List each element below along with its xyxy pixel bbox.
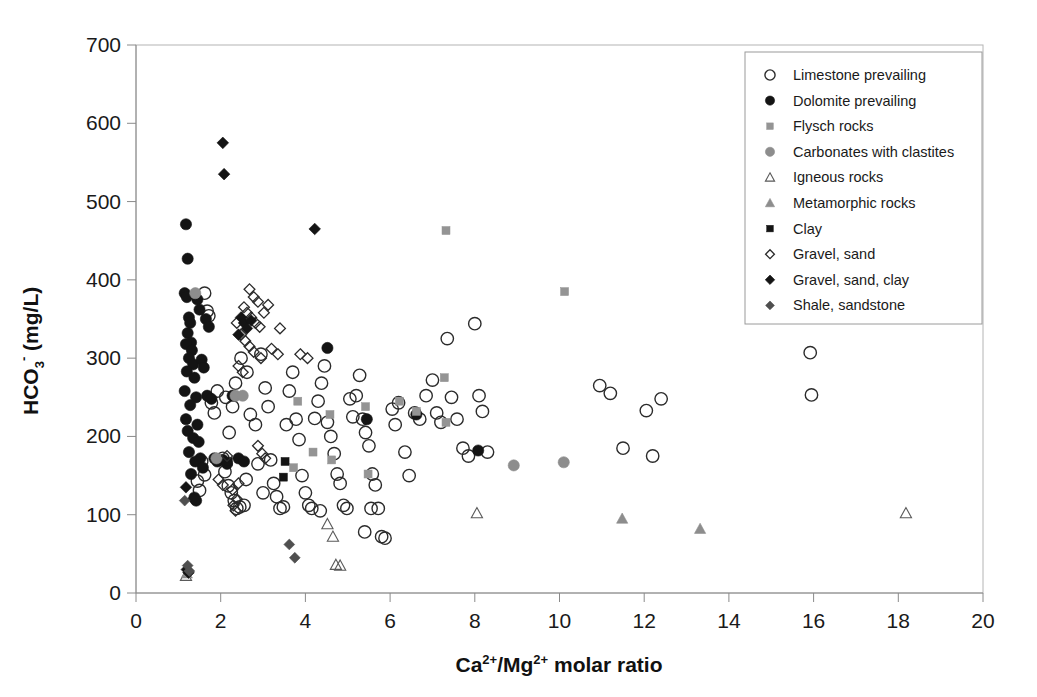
point-open-circle <box>426 374 438 386</box>
point-darkgray-diamond <box>284 539 295 550</box>
x-title-pre: Ca <box>455 653 482 676</box>
point-filled-circle <box>206 393 217 404</box>
y-tick-label: 0 <box>109 581 121 604</box>
point-filled-circle <box>473 445 484 456</box>
point-filled-circle <box>180 219 191 230</box>
legend-item-carbonates-with-clastites[interactable]: Carbonates with clastites <box>765 144 954 160</box>
scatter-chart: 0100200300400500600700 02468101214161820… <box>0 0 1037 697</box>
point-open-circle <box>226 400 238 412</box>
x-tick-label: 14 <box>717 609 741 632</box>
point-gray-square <box>395 397 403 405</box>
y-axis-title: HCO3- (mg/L) <box>16 287 47 415</box>
point-filled-circle <box>238 456 249 467</box>
point-black-diamond <box>218 168 230 180</box>
x-tick-label: 18 <box>887 609 910 632</box>
point-darkgray-diamond <box>179 495 190 506</box>
point-open-circle <box>359 426 371 438</box>
point-open-circle <box>299 487 311 499</box>
x-tick-label: 8 <box>469 609 481 632</box>
legend-item-label: Clay <box>793 221 823 237</box>
point-black-square <box>279 473 287 481</box>
point-open-circle <box>804 346 816 358</box>
point-open-diamond <box>275 323 286 334</box>
point-open-triangle <box>327 531 338 541</box>
point-open-circle <box>604 387 616 399</box>
y-tick-label: 500 <box>86 190 121 213</box>
point-open-circle <box>341 502 353 514</box>
point-gray-square <box>328 456 336 464</box>
point-filled-circle <box>198 362 209 373</box>
point-open-circle <box>399 446 411 458</box>
legend-item-label: Gravel, sand, clay <box>793 272 910 288</box>
point-gray-square <box>326 411 334 419</box>
chart-canvas: 0100200300400500600700 02468101214161820… <box>0 0 1037 697</box>
point-filled-circle <box>185 468 196 479</box>
point-filled-circle <box>322 342 333 353</box>
point-open-circle <box>389 418 401 430</box>
point-open-circle <box>229 377 241 389</box>
x-tick-label: 16 <box>802 609 825 632</box>
point-open-diamond <box>254 321 265 332</box>
x-title-post: molar ratio <box>548 653 662 676</box>
point-open-triangle <box>322 519 333 529</box>
point-open-circle <box>369 479 381 491</box>
x-title-mid: /Mg <box>497 653 533 676</box>
legend-item-label: Flysch rocks <box>793 118 874 134</box>
point-open-circle <box>805 389 817 401</box>
series-metamorphic-rocks <box>181 513 705 578</box>
point-filled-circle <box>185 317 196 328</box>
point-open-circle <box>646 450 658 462</box>
point-open-circle <box>315 377 327 389</box>
point-black-diamond <box>180 482 192 494</box>
x-tick-label: 10 <box>548 609 571 632</box>
x-title-sup2: 2+ <box>533 652 548 667</box>
x-axis: 02468101214161820 <box>130 593 995 632</box>
point-filled-circle <box>185 400 196 411</box>
point-open-circle <box>303 499 315 511</box>
point-open-circle <box>240 473 252 485</box>
point-open-circle <box>337 499 349 511</box>
point-open-circle <box>286 366 298 378</box>
y-title-post: (mg/L) <box>19 287 42 357</box>
point-gray-square <box>290 464 298 472</box>
point-open-circle <box>259 382 271 394</box>
chart-legend: Limestone prevailingDolomite prevailingF… <box>745 52 982 324</box>
point-filled-circle <box>179 385 190 396</box>
point-gray-circle <box>508 460 519 471</box>
y-axis: 0100200300400500600700 <box>86 33 136 604</box>
point-gray-square <box>309 448 317 456</box>
point-gray-circle <box>765 147 774 156</box>
point-open-circle <box>293 433 305 445</box>
point-gray-square <box>364 470 372 478</box>
point-open-triangle <box>335 560 346 570</box>
point-open-circle <box>325 430 337 442</box>
point-open-circle <box>372 502 384 514</box>
point-open-diamond <box>302 353 313 364</box>
point-open-circle <box>473 390 485 402</box>
y-tick-label: 700 <box>86 33 121 56</box>
point-black-diamond <box>217 137 229 149</box>
legend-item-label: Metamorphic rocks <box>793 195 915 211</box>
point-open-triangle <box>471 508 482 518</box>
point-gray-circle <box>190 288 201 299</box>
x-tick-label: 20 <box>971 609 994 632</box>
series-carbonates-with-clastites <box>190 288 570 471</box>
point-open-circle <box>469 317 481 329</box>
y-tick-label: 200 <box>86 424 121 447</box>
point-open-circle <box>451 413 463 425</box>
point-open-circle <box>318 360 330 372</box>
x-tick-label: 4 <box>300 609 312 632</box>
point-open-circle <box>353 369 365 381</box>
point-open-circle <box>262 400 274 412</box>
point-open-circle <box>655 393 667 405</box>
point-filled-circle <box>182 253 193 264</box>
point-open-circle <box>267 477 279 489</box>
point-open-circle <box>283 385 295 397</box>
y-tick-label: 300 <box>86 346 121 369</box>
point-filled-circle <box>193 436 204 447</box>
legend-item-label: Shale, sandstone <box>793 297 905 313</box>
point-gray-circle <box>237 390 248 401</box>
point-open-circle <box>403 469 415 481</box>
point-open-circle <box>314 505 326 517</box>
point-open-circle <box>223 426 235 438</box>
